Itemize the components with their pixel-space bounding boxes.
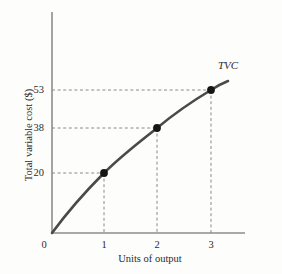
x-tick-label-0: 0 (36, 240, 52, 251)
data-point-marker-3 (207, 86, 215, 94)
chart-figure: 53 38 20 0 1 2 3 Units of output Total v… (0, 0, 282, 274)
chart-plot-area (0, 0, 282, 274)
x-tick-label-2: 2 (149, 240, 165, 251)
y-axis-title: Total variable cost ($) (24, 60, 35, 210)
x-tick-label-3: 3 (203, 240, 219, 251)
data-point-marker-1 (100, 169, 108, 177)
tvc-curve (52, 81, 228, 233)
x-axis-title: Units of output (70, 254, 230, 265)
tvc-curve-label: TVC (218, 60, 238, 71)
data-point-marker-2 (153, 124, 161, 132)
x-tick-label-1: 1 (96, 240, 112, 251)
